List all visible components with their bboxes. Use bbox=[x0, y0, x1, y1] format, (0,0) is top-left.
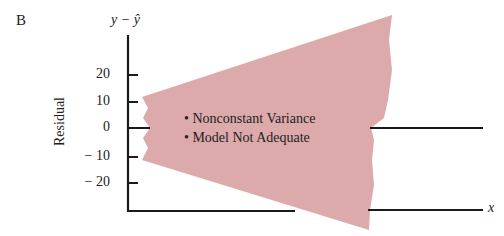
annotation-nonconstant-variance: • Nonconstant Variance bbox=[184, 111, 315, 127]
y-tick-label: − 10 bbox=[70, 148, 110, 164]
y-tick-label: − 20 bbox=[70, 174, 110, 190]
annotation-model-not-adequate: • Model Not Adequate bbox=[184, 130, 310, 146]
y-tick-label: 20 bbox=[70, 66, 110, 82]
y-tick-label: 10 bbox=[70, 93, 110, 109]
x-axis-label: x bbox=[488, 200, 494, 216]
y-tick-label: 0 bbox=[70, 119, 110, 135]
